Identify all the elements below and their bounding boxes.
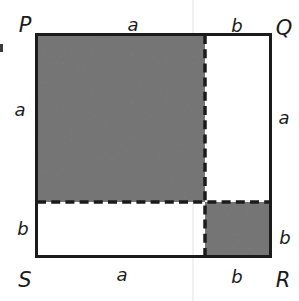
shaded-region-b-squared <box>205 202 270 255</box>
side-label-bottom-a: a <box>116 264 127 285</box>
side-label-right-a: a <box>278 107 289 128</box>
side-label-left-a: a <box>14 99 25 120</box>
vertex-label-r: R <box>276 268 291 292</box>
vertex-label-p: P <box>19 13 32 37</box>
edge-mark-artifact <box>0 44 3 52</box>
side-label-top-b: b <box>231 15 242 36</box>
vertex-label-q: Q <box>276 16 293 40</box>
side-label-bottom-b: b <box>231 266 242 287</box>
geometry-figure: P Q R S a b a b a b a b <box>0 0 299 301</box>
side-label-top-a: a <box>127 14 138 35</box>
shaded-region-a-squared <box>38 36 205 202</box>
diagram-canvas: P Q R S a b a b a b a b <box>0 0 299 301</box>
side-label-left-b: b <box>17 218 28 239</box>
side-label-right-b: b <box>279 227 290 248</box>
vertex-label-s: S <box>18 268 31 292</box>
